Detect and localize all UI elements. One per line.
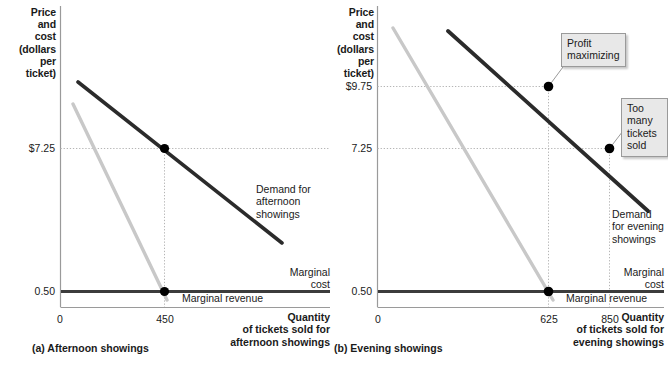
panel-evening-showings: Price and cost (dollars per ticket) $9.7… [334,0,668,369]
x-tick-label-0: 0 [366,313,390,325]
demand-curve [78,82,282,243]
x-tick-label-0: 0 [48,313,72,325]
marginal-cost-label: Marginal cost [606,266,664,291]
panel-afternoon-showings: Price and cost (dollars per ticket) $7.2… [0,0,334,369]
marginal-revenue-curve [73,104,167,300]
demand-curve-label: Demand for afternoon showings [256,183,311,220]
point-profit-max [160,144,169,153]
y-axis-title: Price and cost (dollars per ticket) [0,6,56,79]
x-axis-title: Quantity of tickets sold for afternoon s… [178,311,330,348]
callout-profit-maximizing: Profit maximizing [561,33,626,67]
x-axis-title: Quantity of tickets sold for evening sho… [512,311,664,348]
point-mr-equals-mc [544,287,554,297]
point-mr-equals-mc [160,287,169,296]
marginal-revenue-label: Marginal revenue [566,292,647,304]
marginal-revenue-label: Marginal revenue [182,292,263,304]
panel-a-caption: (a) Afternoon showings [32,342,149,354]
callout-too-many-tickets-sold: Too many tickets sold [621,98,668,157]
point-too-many-tickets [605,144,615,154]
panel-b-caption: (b) Evening showings [334,342,443,354]
y-tick-label-050: 0.50 [0,285,55,297]
point-profit-max [544,82,554,92]
marginal-revenue-curve [393,28,553,300]
y-axis-title: Price and cost (dollars per ticket) [322,6,374,79]
y-tick-label-725: $7.25 [0,142,55,154]
y-tick-label-975: $9.75 [318,80,372,92]
demand-curve-label: Demand for evening showings [612,208,664,245]
x-tick-label-450: 450 [148,313,182,325]
y-tick-label-725: 7.25 [318,142,372,154]
y-tick-label-050: 0.50 [318,285,372,297]
